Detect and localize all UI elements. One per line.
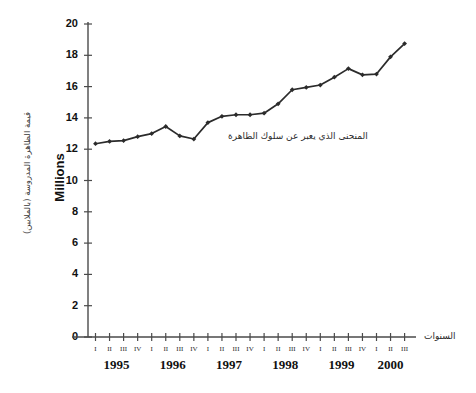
x-year-label: 1999 [313,358,369,372]
x-quarter-label: III [285,345,299,353]
x-quarter-label: II [159,345,173,353]
x-quarter-label: I [89,345,103,353]
x-quarter-label: II [103,345,117,353]
x-quarter-label: I [313,345,327,353]
x-quarter-label: IV [187,345,201,353]
data-point-marker [234,112,239,117]
data-point-marker [135,134,140,139]
data-point-marker [304,85,309,90]
x-quarter-label: I [145,345,159,353]
curve-annotation-arabic: المنحنى الذي يعبر عن سلوك الظاهرة [228,131,368,141]
data-point-marker [121,138,126,143]
x-year-label: 1996 [145,358,201,372]
data-point-marker [107,139,112,144]
series-line [96,44,405,144]
x-quarter-label: IV [131,345,145,353]
data-point-marker [248,112,253,117]
x-quarter-label: I [201,345,215,353]
x-quarter-label: IV [243,345,257,353]
x-quarter-label: III [173,345,187,353]
axis-lines [72,22,416,337]
x-quarter-label: IV [355,345,369,353]
x-year-label: 1998 [257,358,313,372]
x-year-label: 1997 [201,358,257,372]
x-quarter-label: II [384,345,398,353]
x-quarter-label: I [370,345,384,353]
x-quarter-label: III [398,345,412,353]
x-year-label: 1995 [89,358,145,372]
x-quarter-label: IV [299,345,313,353]
data-point-marker [93,141,98,146]
plot-area [0,0,476,393]
x-quarter-label: III [229,345,243,353]
x-year-label: 2000 [363,358,419,372]
chart-canvas: قيمة الظاهرة المدروسة (بالملايين) Millio… [0,0,476,393]
x-quarter-label: III [341,345,355,353]
x-quarter-label: II [271,345,285,353]
x-quarter-label: III [117,345,131,353]
x-axis-label-arabic: السنوات [424,331,456,341]
x-quarter-label: I [257,345,271,353]
x-quarter-label: II [327,345,341,353]
x-quarter-label: II [215,345,229,353]
